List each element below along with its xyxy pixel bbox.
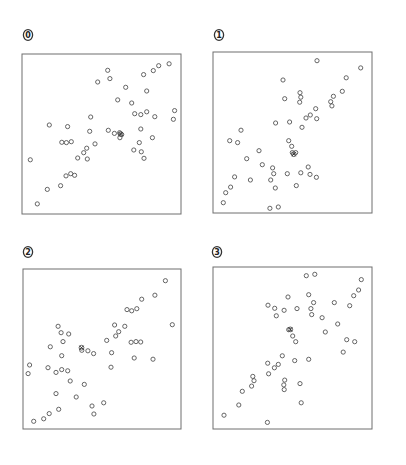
panel-label: 3 [212,247,221,258]
data-point [281,78,285,82]
data-point [130,101,134,105]
data-point [274,314,278,318]
data-point [229,185,233,189]
panel-label-text: 0 [25,31,31,40]
data-point [139,150,143,154]
data-point [130,309,134,313]
data-point [294,184,298,188]
data-point [290,144,294,148]
data-point [28,158,32,162]
data-point [109,365,113,369]
data-point [293,359,297,363]
data-point [59,331,63,335]
data-point [60,368,64,372]
data-point [110,351,114,355]
data-point [309,307,313,311]
data-point [42,417,46,421]
data-point [157,64,161,68]
data-point [163,279,167,283]
data-point [272,366,276,370]
data-point [331,94,335,98]
data-point [298,91,302,95]
data-point [137,141,141,145]
data-point [304,116,308,120]
data-point [329,100,333,104]
data-point [287,139,291,143]
data-point [271,166,275,170]
data-point [352,294,356,298]
data-point [304,274,308,278]
data-point [170,323,174,327]
data-point [142,156,146,160]
data-point [68,379,72,383]
data-point [273,186,277,190]
data-point [54,392,58,396]
data-point [64,141,68,145]
data-point [348,304,352,308]
data-point [236,141,240,145]
data-point [344,76,348,80]
data-point [64,174,68,178]
data-point [139,113,143,117]
data-point [286,295,290,299]
data-point [134,340,138,344]
data-point [307,293,311,297]
data-point [245,157,249,161]
data-point [112,131,116,135]
data-point [133,112,137,116]
scatter-panel-0: 0 [22,30,181,214]
plot-frame [23,269,181,429]
data-point [282,383,286,387]
data-point [48,345,52,349]
data-point [298,382,302,386]
data-point [330,104,334,108]
data-point [314,107,318,111]
data-point [282,308,286,312]
data-point [357,288,361,292]
data-point [307,357,311,361]
data-point [228,139,232,143]
data-point [265,420,269,424]
scatter-panel-3: 3 [212,247,372,429]
scatter-panel-1: 1 [213,30,372,213]
panel-label: 0 [23,30,32,41]
data-point [280,354,284,358]
data-point [117,330,121,334]
data-point [90,404,94,408]
plot-frame [213,52,372,213]
data-point [332,301,336,305]
data-point [57,407,61,411]
data-point [312,301,316,305]
data-point [308,172,312,176]
data-point [291,334,295,338]
data-point [283,97,287,101]
data-point [150,136,154,140]
data-point [76,156,80,160]
data-point [74,395,78,399]
data-point [257,149,261,153]
data-point [88,129,92,133]
data-point [123,324,127,328]
data-point [272,172,276,176]
data-point [239,128,243,132]
data-point [61,340,65,344]
data-point [323,330,327,334]
data-point [145,89,149,93]
data-point [299,95,303,99]
data-point [269,178,273,182]
data-point [300,125,304,129]
data-point [285,172,289,176]
data-point [248,178,252,182]
data-point [28,363,32,367]
data-point [313,272,317,276]
data-point [85,146,89,150]
data-point [151,357,155,361]
data-point [221,201,225,205]
data-point [106,68,110,72]
data-point [125,308,129,312]
data-point [341,350,345,354]
data-point [105,338,109,342]
data-point [353,340,357,344]
data-point [135,307,139,311]
data-point [35,202,39,206]
